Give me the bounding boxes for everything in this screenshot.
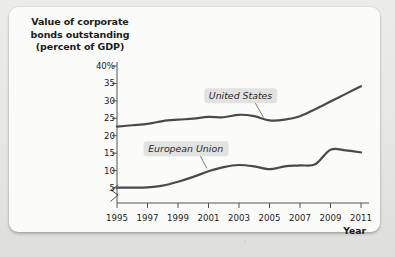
y-tick-label-30: 30: [81, 96, 115, 106]
x-tick-label-1997: 1997: [137, 213, 159, 223]
y-axis-tick-labels: 510152025303540%: [81, 7, 115, 232]
x-tick-label-2001: 2001: [198, 213, 220, 223]
x-tick-label-1999: 1999: [167, 213, 189, 223]
x-axis-title: Year: [343, 225, 366, 236]
chart-card: Value of corporate bonds outstanding (pe…: [9, 7, 380, 232]
y-tick-label-25: 25: [81, 113, 115, 123]
y-tick-label-15: 15: [81, 148, 115, 158]
plot-area: [9, 7, 380, 232]
chart-screenshot: Value of corporate bonds outstanding (pe…: [0, 0, 395, 257]
y-tick-label-20: 20: [81, 131, 115, 141]
leader-line-2: [200, 155, 207, 169]
x-tick-label-2003: 2003: [228, 213, 250, 223]
series-label-united-states: United States: [204, 88, 277, 104]
y-tick-label-40: 40%: [81, 61, 115, 71]
series-label-european-union: European Union: [143, 141, 228, 157]
y-tick-label-10: 10: [81, 166, 115, 176]
x-tick-label-2011: 2011: [350, 213, 372, 223]
x-tick-label-2009: 2009: [320, 213, 342, 223]
leader-line-1: [255, 102, 264, 118]
y-tick-label-5: 5: [81, 183, 115, 193]
x-tick-label-2005: 2005: [259, 213, 281, 223]
x-tick-label-1995: 1995: [106, 213, 128, 223]
y-tick-label-35: 35: [81, 78, 115, 88]
x-tick-label-2007: 2007: [289, 213, 311, 223]
